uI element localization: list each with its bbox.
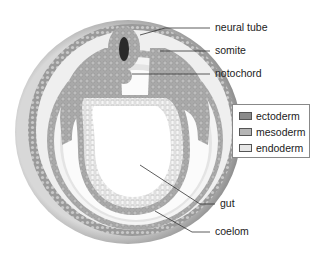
label-gut: gut <box>220 197 235 209</box>
label-somite: somite <box>215 44 246 56</box>
label-coelom: coelom <box>215 225 249 237</box>
label-neural-tube: neural tube <box>215 21 268 33</box>
neural-tube <box>108 26 140 70</box>
legend-item-ectoderm: ectoderm <box>239 109 300 123</box>
notochord <box>116 68 132 84</box>
mesoderm-swatch-icon <box>239 128 252 136</box>
legend-label: endoderm <box>256 142 303 154</box>
endoderm-swatch-icon <box>239 144 252 152</box>
legend-label: mesoderm <box>256 126 306 138</box>
legend: ectoderm mesoderm endoderm <box>232 104 310 158</box>
label-notochord: notochord <box>215 67 262 79</box>
legend-item-endoderm: endoderm <box>239 141 303 155</box>
legend-label: ectoderm <box>256 110 300 122</box>
legend-item-mesoderm: mesoderm <box>239 125 306 139</box>
ectoderm-swatch-icon <box>239 112 252 120</box>
